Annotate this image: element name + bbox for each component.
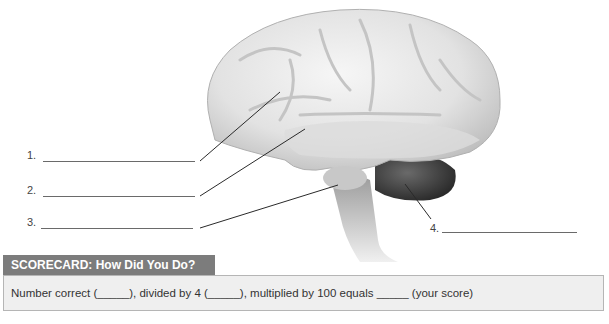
cerebrum [208, 9, 501, 170]
answer-blank-3[interactable] [41, 228, 193, 229]
label-2: 2. [27, 184, 36, 196]
label-number: 1. [27, 149, 36, 161]
answer-blank-4[interactable] [442, 232, 577, 233]
pons [323, 166, 367, 190]
scorecard-text: Number correct (_____), divided by 4 (__… [11, 287, 473, 299]
label-number: 2. [27, 184, 36, 196]
label-number: 3. [27, 216, 36, 228]
scorecard-box: Number correct (_____), divided by 4 (__… [3, 275, 604, 311]
label-3: 3. [27, 216, 36, 228]
answer-blank-2[interactable] [43, 196, 195, 197]
scorecard-title: SCORECARD: How Did You Do? [3, 255, 215, 275]
label-number: 4. [430, 222, 439, 234]
label-1: 1. [27, 149, 36, 161]
label-4: 4. [430, 222, 439, 234]
answer-blank-1[interactable] [43, 161, 195, 162]
